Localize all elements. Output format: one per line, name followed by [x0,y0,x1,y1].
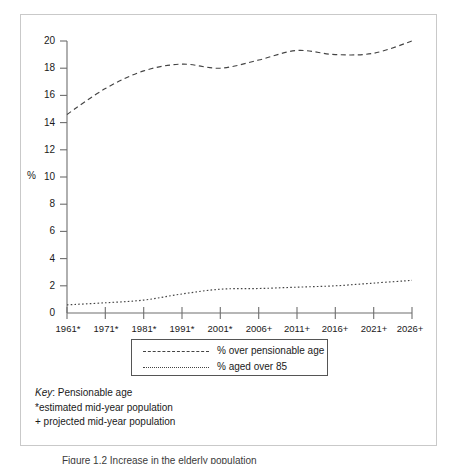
x-tick-label: 1991* [170,324,195,334]
x-tick-label: 1981* [132,324,157,334]
key-line-pensionable-age: Key: Pensionable age [35,386,175,401]
y-tick-label: 2 [33,281,55,291]
y-tick-label: 8 [33,199,55,209]
y-tick-label: 10 [33,172,55,182]
legend-dashed-line-icon [143,351,209,352]
x-tick-label: 2011+ [284,324,310,334]
series-line-aged-over-85 [67,280,412,304]
x-tick-label: 2006+ [246,324,273,334]
y-tick-label: 16 [33,90,55,100]
key-note-projected: + projected mid-year population [35,415,175,430]
key-word: Key [35,387,52,398]
y-tick-label: 4 [33,254,55,264]
legend-label: % aged over 85 [217,362,287,372]
x-tick-label: 2026+ [397,324,424,334]
y-tick-label: 14 [33,118,55,128]
chart-key-notes: Key: Pensionable age *estimated mid-year… [35,386,175,430]
y-tick-label: 18 [33,63,55,73]
y-tick-label: 12 [33,145,55,155]
key-line-rest: : Pensionable age [52,387,132,398]
series-line-over-pensionable-age [67,41,412,114]
legend-dotted-line-icon [143,367,209,368]
legend-item-aged-over-85: % aged over 85 [132,359,327,375]
y-axis-ticks [60,41,67,286]
y-tick-label: 0 [33,308,55,318]
x-tick-label: 2016+ [322,324,349,334]
key-note-estimated: *estimated mid-year population [35,401,175,416]
y-tick-label: 20 [33,36,55,46]
x-tick-label: 2021+ [361,324,388,334]
legend-item-over-pensionable-age: % over pensionable age [132,343,327,359]
figure-caption: Figure 1.2 Increase in the elderly popul… [62,455,257,464]
x-tick-label: 1971* [94,324,119,334]
y-tick-label: 6 [33,226,55,236]
chart-legend: % over pensionable age % aged over 85 [131,339,328,376]
x-tick-label: 1961* [56,324,81,334]
x-tick-label: 2001* [208,324,233,334]
legend-label: % over pensionable age [217,346,324,356]
